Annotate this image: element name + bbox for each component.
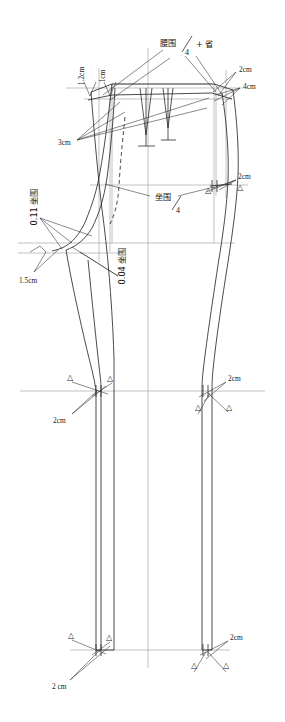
outline-sideseam-left: [91, 92, 114, 650]
measurement-hem-right: 2cm: [230, 633, 243, 642]
measurement-waist-left-1: 1.2cm: [77, 67, 86, 86]
dimension-labels: 腰围 4 + 省 坐围 4 1.2cm 1cm 3cm 2cm 4cm 2cm …: [19, 36, 256, 691]
measurement-waist-left-2: 1cm: [98, 69, 107, 82]
outline-leg-left-extra: [88, 260, 101, 650]
leader-011-a: [40, 218, 72, 243]
pattern-outline: [52, 84, 238, 650]
leader-011-c: [40, 218, 92, 236]
leader-hem-left-a: [70, 650, 100, 680]
hip-formula-numerator: 坐围: [155, 192, 171, 202]
leader-1-2cm: [84, 82, 96, 96]
guide-lines: [18, 48, 265, 668]
measurement-rise-b: 0.04 坐围: [117, 248, 127, 285]
triangle-marker-icon: △: [107, 374, 114, 383]
triangle-marker-icon: △: [205, 186, 212, 195]
outline-center-front-seam-inner: [66, 88, 115, 250]
measurement-knee-left: 2cm: [53, 416, 66, 425]
triangle-marker-icon: △: [237, 183, 244, 192]
leader-knee-left-a: [72, 390, 98, 414]
leader-hem-right-a: [200, 641, 228, 655]
measurement-hem-left: 2 cm: [52, 682, 67, 691]
measurement-waist-left-3: 3cm: [58, 138, 71, 147]
measurement-hip-right: 2cm: [238, 172, 251, 181]
leader-3cm-b: [77, 112, 125, 140]
leader-waist-formula-d: [196, 56, 223, 96]
leader-knee-left-c: [72, 382, 108, 394]
outline-inseam-left: [66, 250, 96, 650]
triangle-marker-icon: △: [67, 373, 74, 382]
triangle-markers: △ △ △ △ △ △ △ △ △ △: [67, 183, 244, 670]
leader-3cm-c: [77, 98, 209, 140]
waist-formula-denominator: 4: [185, 48, 189, 57]
leader-hem-left-b: [70, 646, 110, 680]
waist-formula-numerator: 腰围: [160, 38, 176, 48]
measurement-side-left: 1.5cm: [19, 276, 38, 285]
triangle-marker-icon: △: [106, 633, 113, 642]
leader-011-b: [40, 218, 62, 249]
hip-formula-denominator: 4: [176, 206, 180, 215]
triangle-marker-icon: △: [195, 403, 202, 412]
waist-formula-suffix: + 省: [196, 39, 213, 49]
triangle-marker-icon: △: [191, 661, 198, 670]
triangle-marker-icon: △: [226, 403, 233, 412]
leader-1-5cm-b: [34, 250, 58, 272]
leader-waist-formula-c: [185, 56, 216, 92]
leader-2cm-top-a: [213, 72, 236, 92]
pattern-drawing-canvas: △ △ △ △ △ △ △ △ △ △ 腰围 4 + 省 坐围 4 1.2cm …: [0, 0, 285, 722]
measurement-rise-a: 0.11 坐围: [29, 189, 39, 226]
measurement-waist-right-1: 2cm: [239, 65, 252, 74]
measurement-waist-right-2: 4cm: [243, 82, 256, 91]
leader-3cm-d: [77, 108, 207, 140]
outline-inseam-right: [202, 93, 228, 650]
triangle-marker-icon: △: [223, 661, 230, 670]
outline-fork-left: [52, 247, 64, 251]
leader-3cm-a: [77, 102, 120, 140]
measurement-knee-right: 2cm: [228, 374, 241, 383]
outline-center-front-seam: [64, 84, 112, 247]
triangle-marker-icon: △: [68, 631, 75, 640]
trouser-pattern-svg: △ △ △ △ △ △ △ △ △ △ 腰围 4 + 省 坐围 4 1.2cm …: [0, 0, 285, 722]
